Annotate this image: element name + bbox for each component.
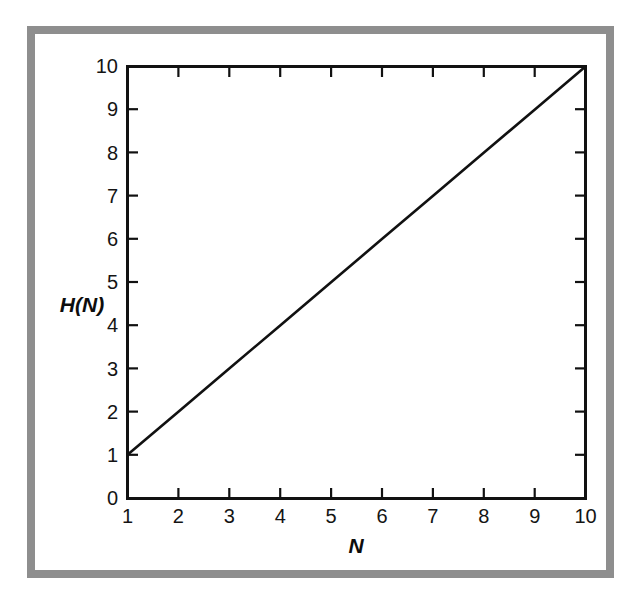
x-axis-ticks-bottom	[128, 488, 586, 498]
x-tick-label-10: 10	[574, 505, 596, 527]
y-axis-tick-labels: 0 1 2 3 4 5 6 7 8 9 10	[96, 55, 118, 509]
y-tick-label-10: 10	[96, 55, 118, 77]
y-axis-title: H(N)	[60, 293, 104, 316]
plot-border-rect	[128, 67, 586, 499]
x-tick-label-5: 5	[326, 505, 337, 527]
x-tick-label-3: 3	[224, 505, 235, 527]
y-tick-label-4: 4	[107, 314, 118, 336]
y-tick-label-8: 8	[107, 142, 118, 164]
x-axis-title: N	[348, 534, 364, 557]
x-axis-tick-labels: 1 2 3 4 5 6 7 8 9 10	[122, 505, 597, 527]
x-tick-label-8: 8	[478, 505, 489, 527]
x-axis-ticks-top	[178, 67, 534, 77]
chart-canvas: 0 1 2 3 4 5 6 7 8 9 10 1 2 3 4 5 6 7 8 9…	[0, 0, 641, 601]
x-tick-label-7: 7	[427, 505, 438, 527]
figure-root: 0 1 2 3 4 5 6 7 8 9 10 1 2 3 4 5 6 7 8 9…	[0, 0, 641, 601]
y-axis-ticks-left	[128, 109, 138, 455]
y-tick-label-5: 5	[107, 271, 118, 293]
x-tick-label-1: 1	[122, 505, 133, 527]
plot-axes-box	[128, 67, 586, 499]
y-tick-label-2: 2	[107, 401, 118, 423]
y-tick-label-9: 9	[107, 98, 118, 120]
y-tick-label-7: 7	[107, 185, 118, 207]
y-axis-ticks-right	[575, 109, 585, 455]
series-line-h-of-n	[128, 67, 586, 455]
x-tick-label-6: 6	[376, 505, 387, 527]
x-tick-label-9: 9	[529, 505, 540, 527]
y-tick-label-6: 6	[107, 228, 118, 250]
y-tick-label-0: 0	[107, 487, 118, 509]
x-tick-label-2: 2	[173, 505, 184, 527]
y-tick-label-1: 1	[107, 444, 118, 466]
x-tick-label-4: 4	[275, 505, 286, 527]
data-series-group	[128, 67, 586, 455]
y-tick-label-3: 3	[107, 358, 118, 380]
